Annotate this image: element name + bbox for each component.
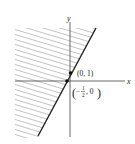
fraction-denominator: 2 <box>82 92 85 98</box>
y-axis-label: y <box>66 14 71 23</box>
inequality-graph: y x (0, 1) ( − 1 2 , 0 ) <box>0 0 135 144</box>
minus-sign: − <box>76 88 80 96</box>
fraction-numerator: 1 <box>82 85 85 91</box>
point-neg-half-0-label: ( − 1 2 , 0 ) <box>72 85 101 100</box>
paren-close: ) <box>97 86 101 100</box>
point-b-coords: , 0 <box>86 87 94 96</box>
x-axis-label: x <box>126 77 131 86</box>
point-0-1-label: (0, 1) <box>77 69 94 78</box>
point-0-1 <box>69 71 73 75</box>
point-neg-half-0 <box>65 79 69 83</box>
